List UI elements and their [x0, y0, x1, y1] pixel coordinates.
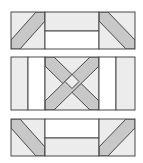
middle-row: [11, 57, 135, 110]
bottom-center-bars: [45, 119, 99, 156]
middle-right-outer-strip: [116, 57, 135, 110]
middle-left-outer-strip: [11, 57, 28, 110]
top-row: [11, 12, 135, 49]
middle-cross-square: [45, 57, 99, 110]
bottom-row: [11, 119, 135, 156]
middle-right-inner-strip: [99, 57, 116, 110]
top-left-diagonal-square: [11, 12, 45, 49]
middle-left-inner-strip: [28, 57, 45, 110]
quilt-diagram: [0, 0, 143, 163]
top-right-diagonal-square: [99, 12, 135, 49]
top-center-bars: [45, 12, 99, 49]
bottom-right-diagonal-square: [99, 119, 135, 156]
bottom-left-diagonal-square: [11, 119, 45, 156]
